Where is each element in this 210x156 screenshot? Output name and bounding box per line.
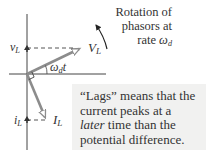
v-instant-subscript: L (15, 46, 20, 55)
i-amplitude-subscript: L (57, 118, 62, 128)
time-symbol: t (63, 60, 66, 74)
angle-arc-icon (46, 66, 48, 75)
lags-explanation-note: “Lags” means that the current peaks at a… (72, 84, 206, 150)
v-amplitude-symbol: V (88, 40, 96, 55)
current-phasor-arrow (27, 74, 45, 117)
note-line-3-rest: time than the (105, 117, 176, 132)
i-instant-label: iL (14, 113, 22, 128)
i-amplitude-label: IL (53, 112, 62, 128)
rotation-line-3: rate ωd (110, 33, 172, 51)
v-instant-label: vL (10, 40, 20, 55)
rotation-line-2: phasors at (110, 19, 172, 33)
note-emphasis-later: later (80, 117, 105, 132)
v-amplitude-subscript: L (96, 46, 101, 56)
rotation-rate-text: rate (137, 33, 159, 47)
rotation-omega-subscript: d (168, 39, 172, 48)
note-line-1: “Lags” means that the (80, 89, 206, 104)
phase-angle-label: ωdt (50, 60, 66, 75)
note-line-2: current peaks at a (80, 104, 206, 119)
i-instant-subscript: L (17, 119, 22, 128)
note-line-4: potential difference. (80, 133, 206, 148)
rotation-annotation: Rotation of phasors at rate ωd (110, 5, 172, 51)
note-line-3: later time than the (80, 118, 206, 133)
rotation-line-1: Rotation of (110, 5, 172, 19)
rotation-omega-symbol: ω (159, 33, 168, 47)
v-amplitude-label: VL (88, 40, 101, 56)
